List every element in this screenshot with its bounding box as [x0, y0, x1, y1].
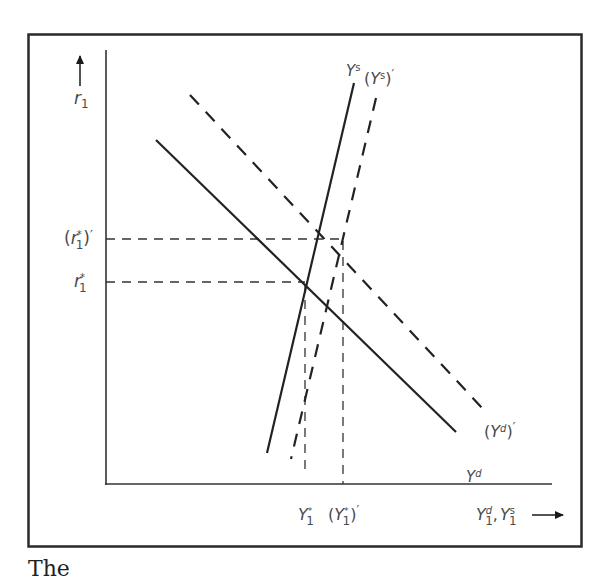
figure-caption-cropped: The — [28, 558, 70, 580]
tick-label-Y1-star: Y*1 — [298, 505, 314, 528]
tick-label-r1-star-prime: (r*1)′ — [64, 227, 93, 252]
curve-label-Yd-prime: (Yd)′ — [484, 420, 516, 441]
curve-Ys-prime — [291, 98, 376, 459]
curve-Yd-prime — [190, 95, 484, 410]
curve-label-Ys-prime: (Ys)′ — [364, 67, 395, 88]
x-axis-label: Yd1,Ys1 — [476, 505, 517, 528]
curve-label-Ys: Ys — [346, 62, 360, 80]
tick-label-Y1-star-prime: (Y*1)′ — [328, 503, 359, 528]
y-axis-label: r1 — [74, 88, 89, 111]
tick-label-r1-star: r*1 — [74, 271, 87, 295]
curve-Ys — [267, 83, 354, 453]
